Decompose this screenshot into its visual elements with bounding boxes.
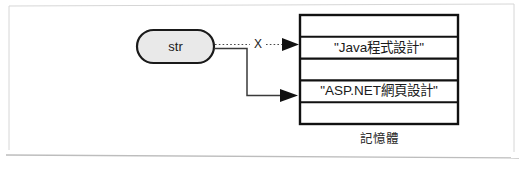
broken-edge-arrowhead-icon: [282, 38, 299, 51]
memory-cell-value-3: "ASP.NET網頁設計": [320, 83, 438, 98]
memory-block-outline: [300, 15, 458, 124]
diagram-canvas: str X "Java程式設計" "ASP.NET網頁設計" 記憶體: [0, 0, 523, 169]
memory-reference-diagram: str X "Java程式設計" "ASP.NET網頁設計" 記憶體: [0, 0, 523, 169]
memory-cell-value-1: "Java程式設計": [334, 40, 424, 55]
active-edge-path: [214, 49, 281, 96]
active-edge-arrowhead-icon: [280, 89, 298, 102]
active-reference-edge: [214, 49, 298, 103]
memory-block: "Java程式設計" "ASP.NET網頁設計" 記憶體: [300, 15, 458, 146]
frame-top-border: [9, 4, 514, 6]
frame-bottom-border: [6, 155, 519, 158]
memory-block-caption: 記憶體: [360, 131, 399, 146]
variable-node-str[interactable]: str: [137, 30, 214, 63]
variable-capsule-label: str: [168, 39, 183, 54]
broken-link-x-marker: X: [254, 37, 262, 51]
